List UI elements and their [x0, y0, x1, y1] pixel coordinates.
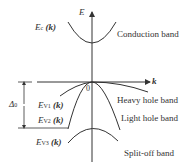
heavy-hole-band-symbol: EV1 (k): [38, 101, 64, 110]
light-hole-band-symbol: EV2 (k): [38, 116, 64, 125]
light-hole-band-label: Light hole band: [121, 114, 178, 123]
conduction-band-symbol: Ec (k): [35, 23, 56, 32]
band-diagram-canvas: [0, 0, 187, 163]
heavy-hole-band-curve: [60, 82, 148, 96]
conduction-band-label: Conduction band: [117, 30, 179, 39]
split-off-band-symbol: EV3 (k): [36, 138, 62, 147]
energy-axis-label: E: [79, 8, 85, 17]
split-off-energy-label: Δ0: [9, 100, 17, 109]
split-off-band-label: Split-off band: [124, 149, 174, 158]
origin-label: 0: [86, 85, 90, 93]
k-axis-label: k: [152, 77, 157, 86]
split-off-band-curve: [68, 128, 118, 143]
light-hole-band-curve: [68, 82, 120, 130]
heavy-hole-band-label: Heavy hole band: [117, 96, 178, 105]
